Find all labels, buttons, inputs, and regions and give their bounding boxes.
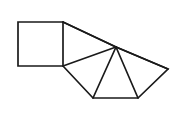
geometric-figure: Geometric fan of triangles with attached… bbox=[0, 0, 184, 121]
face-square bbox=[18, 22, 63, 66]
